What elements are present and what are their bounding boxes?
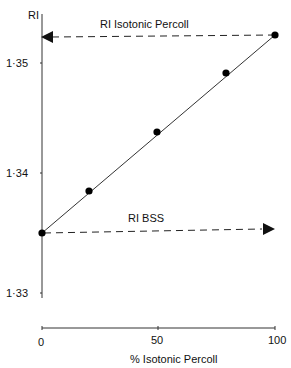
data-point — [222, 69, 229, 76]
y-tick-label: 1·35 — [6, 57, 28, 69]
y-tick-label: 1·33 — [6, 287, 28, 299]
x-axis-label: % Isotonic Percoll — [130, 353, 217, 365]
annotation-top-dashed-line — [52, 35, 275, 37]
arrow-left-icon — [41, 31, 53, 43]
arrow-right-icon — [263, 223, 275, 235]
data-point — [153, 128, 160, 135]
y-tick-label: 1·34 — [6, 167, 28, 179]
x-tick-label: 50 — [151, 334, 163, 346]
annotation-bottom-dashed-line — [44, 229, 262, 233]
data-point — [271, 31, 278, 38]
chart: RI 1·35 1·34 1·33 0 50 100 % Isotonic Pe… — [0, 0, 291, 368]
x-tick-label: 100 — [268, 334, 286, 346]
annotation-top-label: RI Isotonic Percoll — [100, 18, 189, 30]
annotation-bottom-label: RI BSS — [128, 212, 164, 224]
y-axis-label: RI — [28, 9, 39, 21]
data-point — [38, 229, 45, 236]
data-point — [85, 187, 92, 194]
x-tick-label: 0 — [38, 336, 44, 348]
